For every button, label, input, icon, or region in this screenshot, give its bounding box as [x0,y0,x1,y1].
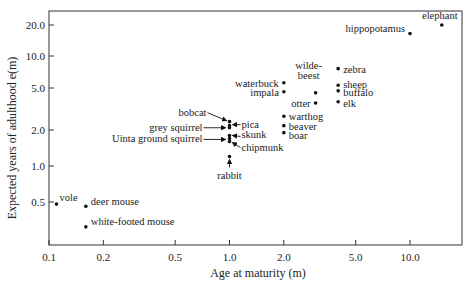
data-point [228,126,232,130]
data-point [282,131,286,135]
x-tick-label: 1.0 [223,251,237,263]
data-point [282,90,286,94]
point-label: deer mouse [91,196,139,207]
data-point [314,91,318,95]
point-label: boar [289,130,308,141]
y-axis-label: Expected years of adulthood e(m) [5,57,19,220]
y-tick-label: 20.0 [26,19,46,31]
point-label: vole [59,192,77,203]
x-tick-label: 10.0 [400,251,420,263]
point-label: impala [250,87,279,98]
point-label: chipmunk [242,142,285,153]
point-label: skunk [242,129,268,140]
data-point [84,205,88,209]
point-label: otter [291,98,311,109]
point-label: rabbit [217,170,242,181]
data-point [228,155,232,159]
point-label: Uinta ground squirrel [112,133,202,144]
data-point [228,120,232,124]
point-label: white-footed mouse [91,216,175,227]
data-point [336,89,340,93]
x-axis-label: Age at maturity (m) [210,266,306,280]
data-point [314,101,318,105]
data-point [282,124,286,128]
point-label: grey squirrel [149,122,202,133]
y-tick-label: 5.0 [31,82,45,94]
point-label: hippopotamus [346,23,406,34]
y-axis: 20.010.05.02.01.00.5 [26,19,54,208]
data-point [336,100,340,104]
data-point [55,202,59,206]
data-point [282,114,286,118]
point-label: pica [242,119,260,130]
data-point [336,67,340,71]
y-tick-label: 0.5 [31,196,45,208]
x-tick-label: 0.1 [42,251,56,263]
annotation-arrows [204,113,241,168]
data-point [228,140,232,144]
data-point [282,81,286,85]
point-label: zebra [343,64,366,75]
point-label: bobcat [179,107,207,118]
data-point [228,137,232,141]
x-tick-label: 0.2 [96,251,110,263]
x-axis: 0.10.20.51.02.05.010.0 [42,240,420,263]
data-point [336,84,340,88]
data-point [440,23,444,27]
y-tick-label: 1.0 [31,160,45,172]
data-points: voledeer mousewhite-footed mousebobcatpi… [55,10,458,229]
data-point [408,32,412,36]
y-tick-label: 2.0 [31,124,45,136]
y-tick-label: 10.0 [26,50,46,62]
point-label: beest [298,70,320,81]
point-label: elephant [422,10,458,21]
point-label: buffalo [343,87,373,98]
x-tick-label: 2.0 [277,251,291,263]
arrow [208,113,227,121]
scatter-chart: 0.10.20.51.02.05.010.0 20.010.05.02.01.0… [0,0,471,287]
x-tick-label: 5.0 [349,251,363,263]
arrow [233,135,241,136]
arrow [233,143,241,148]
point-label: elk [343,98,357,109]
x-tick-label: 0.5 [168,251,182,263]
data-point [84,225,88,229]
